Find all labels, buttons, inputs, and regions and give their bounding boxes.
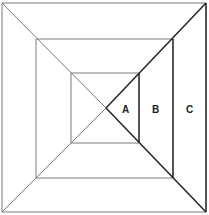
region-c-label: C [186,104,193,115]
nested-squares-diagram: A B C [0,0,209,215]
diagonal-top-left [2,3,106,108]
diagonal-top-right [106,3,206,108]
diagonal-bottom-right [106,108,206,212]
region-b-label: B [152,104,159,115]
diagonal-bottom-left [2,108,106,212]
region-a-label: A [122,104,129,115]
diagram-canvas: A B C [0,0,209,215]
